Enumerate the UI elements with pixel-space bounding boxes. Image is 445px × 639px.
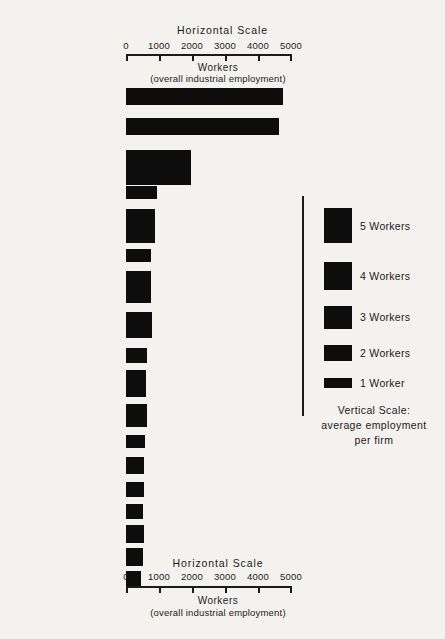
bar-mattress-making xyxy=(126,504,143,519)
bar-tinsmithing xyxy=(126,249,151,262)
bar-blacksmithing xyxy=(126,370,146,397)
legend-swatch-5-workers xyxy=(324,208,352,243)
bar-row-photography: Photography xyxy=(0,457,300,475)
bar-row-minor-industries: Minor industries xyxy=(0,186,300,200)
bottom-tick-label-2000: 2000 xyxy=(181,571,203,582)
bar-row-printing: Printing xyxy=(0,271,300,304)
bottom-scale-ticklabels: 0 1000 2000 3000 4000 5000 xyxy=(0,571,445,583)
bar-welding-battery-charging xyxy=(126,404,147,427)
bar-row-baking: Baking xyxy=(0,209,300,244)
bar-row-tailoring: Tailoring xyxy=(0,88,300,106)
bottom-scale: Horizontal Scale xyxy=(0,557,445,569)
bar-goldsmithing xyxy=(126,482,144,497)
legend-swatch-3-workers xyxy=(324,306,352,329)
bar-row-motor-repair: Motor repair xyxy=(0,150,300,186)
bar-shoe-repair xyxy=(126,435,145,448)
bottom-axis-unit-sub: (overall industrial employment) xyxy=(0,607,445,618)
bar-row-tinsmithing: Tinsmithing xyxy=(0,249,300,263)
bar-row-shoe-making-rubber: Shoe making: rubber xyxy=(0,525,300,544)
legend-caption: Vertical Scale: average employment per f… xyxy=(304,403,444,448)
bar-baking xyxy=(126,209,155,243)
legend-panel: 5 Workers 4 Workers 3 Workers 2 Workers … xyxy=(300,196,445,446)
bottom-tick-label-5000: 5000 xyxy=(280,571,302,582)
bar-tailoring xyxy=(126,88,283,105)
bottom-axis-unit: Workers xyxy=(0,595,445,606)
bar-minor-industries xyxy=(126,186,157,199)
legend-label-5-workers: 5 Workers xyxy=(360,220,410,232)
bottom-axis-line xyxy=(126,586,292,595)
bar-shoe-making-rubber xyxy=(126,525,144,543)
legend-swatch-4-workers xyxy=(324,262,352,290)
legend-swatch-2-workers xyxy=(324,345,352,361)
bar-carpentry xyxy=(126,118,279,135)
bar-miscellaneous-industries xyxy=(126,312,152,338)
bottom-tick-label-0: 0 xyxy=(123,571,128,582)
bar-row-goldsmithing: Goldsmithing xyxy=(0,482,300,498)
bottom-axis-unit-label: Workers xyxy=(0,595,445,606)
bottom-scale-title: Horizontal Scale xyxy=(0,557,445,569)
bar-motor-repair xyxy=(126,150,191,185)
bar-row-carpentry: Carpentry xyxy=(0,118,300,136)
bottom-tick-label-1000: 1000 xyxy=(148,571,170,582)
bar-row-mattress-making: Mattress making xyxy=(0,504,300,520)
legend-label-1-worker: 1 Worker xyxy=(360,377,405,389)
bar-radio-repair xyxy=(126,348,147,363)
bar-row-shoe-repair: Shoe repair xyxy=(0,435,300,449)
legend-swatch-1-worker xyxy=(324,378,352,388)
legend-label-4-workers: 4 Workers xyxy=(360,270,410,282)
bottom-tick-label-4000: 4000 xyxy=(247,571,269,582)
legend-label-3-workers: 3 Workers xyxy=(360,311,410,323)
bottom-axis-unit-sublabel: (overall industrial employment) xyxy=(0,607,445,618)
chart-page: Horizontal Scale 0 1000 2000 3000 4000 5… xyxy=(0,0,445,639)
bar-row-welding-battery-charging: Welding and battery charging xyxy=(0,404,300,428)
bar-printing xyxy=(126,271,151,303)
bottom-tick-label-3000: 3000 xyxy=(214,571,236,582)
bar-photography xyxy=(126,457,144,474)
legend-divider xyxy=(302,196,304,416)
legend-label-2-workers: 2 Workers xyxy=(360,347,410,359)
bar-row-blacksmithing: Blacksmithing xyxy=(0,370,300,398)
bar-row-miscellaneous-industries: Miscellaneous industries xyxy=(0,312,300,339)
bar-row-radio-repair: Radio repair xyxy=(0,348,300,364)
